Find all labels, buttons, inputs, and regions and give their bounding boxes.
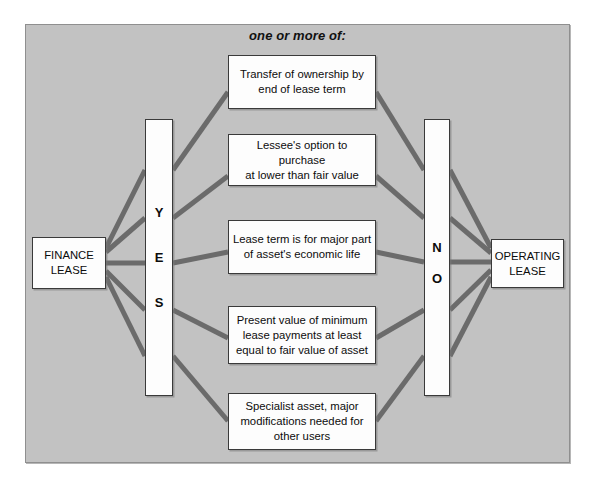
bar-yes[interactable]: Y E S	[145, 119, 173, 396]
criteria-box-lease-term-major-part[interactable]: Lease term is for major part of asset's …	[228, 220, 376, 274]
bar-no[interactable]: N O	[424, 119, 450, 396]
criteria-box-option-to-purchase[interactable]: Lessee's option to purchase at lower tha…	[228, 134, 376, 186]
bar-yes-letter-e: E	[155, 250, 164, 265]
node-finance-lease[interactable]: FINANCE LEASE	[32, 237, 106, 289]
diagram-title: one or more of:	[25, 28, 570, 43]
diagram-canvas: one or more of: FINANCE LEASE Y E S Tran…	[0, 0, 596, 485]
criteria-box-present-value-minimum[interactable]: Present value of minimum lease payments …	[228, 306, 376, 364]
criteria-label-0: Transfer of ownership by end of lease te…	[229, 67, 375, 97]
criteria-box-transfer-of-ownership[interactable]: Transfer of ownership by end of lease te…	[228, 55, 376, 109]
bar-yes-letter-s: S	[155, 295, 164, 310]
criteria-label-3: Present value of minimum lease payments …	[229, 313, 375, 358]
criteria-box-specialist-asset[interactable]: Specialist asset, major modifications ne…	[228, 393, 376, 450]
node-operating-lease[interactable]: OPERATING LEASE	[491, 239, 564, 288]
criteria-label-2: Lease term is for major part of asset's …	[229, 232, 375, 262]
bar-no-letter-n: N	[432, 240, 441, 255]
node-operating-lease-label: OPERATING LEASE	[492, 249, 564, 279]
node-finance-lease-label: FINANCE LEASE	[33, 248, 105, 278]
bar-no-letter-o: O	[432, 271, 442, 286]
criteria-label-1: Lessee's option to purchase at lower tha…	[229, 138, 375, 183]
bar-yes-letter-y: Y	[155, 205, 164, 220]
criteria-label-4: Specialist asset, major modifications ne…	[229, 399, 375, 444]
